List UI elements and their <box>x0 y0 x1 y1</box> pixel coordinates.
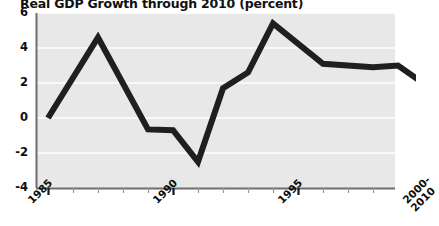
y-tick-label: -4 <box>2 182 28 193</box>
y-tick-label: 0 <box>2 112 28 123</box>
plot-background <box>36 13 395 188</box>
y-tick-label: 6 <box>2 7 28 18</box>
y-tick-label: 4 <box>2 42 28 53</box>
y-tick-label: -2 <box>2 147 28 158</box>
y-tick-label: 2 <box>2 77 28 88</box>
